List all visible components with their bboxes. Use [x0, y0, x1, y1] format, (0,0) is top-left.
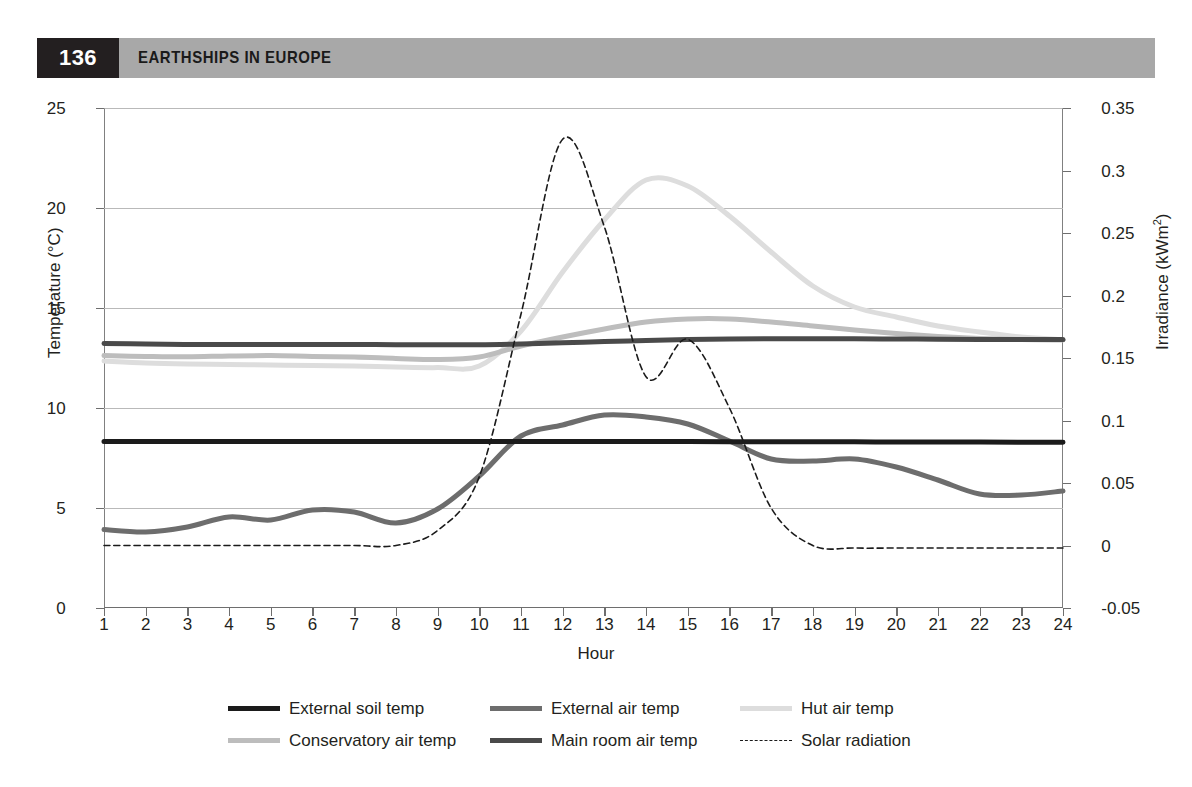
legend-label: Main room air temp	[551, 732, 697, 749]
x-axis-tick-label: 22	[970, 616, 989, 633]
x-axis-tick-label: 2	[141, 616, 150, 633]
y-axis-right-tick	[1063, 358, 1071, 359]
y-axis-left-tick-label: 25	[47, 100, 66, 117]
page-header-band: 136 EARTHSHIPS IN EUROPE	[37, 38, 1155, 78]
running-head-title: EARTHSHIPS IN EUROPE	[138, 38, 331, 78]
series-lines	[104, 108, 1063, 608]
legend-swatch-dashed-line-icon	[740, 740, 792, 741]
y-axis-left-tick	[96, 308, 104, 309]
y-axis-left-tick-label: 20	[47, 200, 66, 217]
chart-legend: External soil tempExternal air tempHut a…	[0, 692, 1192, 756]
legend-swatch-line-icon	[490, 738, 542, 743]
x-axis-tick-label: 9	[433, 616, 442, 633]
y-axis-left-tick-label: 15	[47, 300, 66, 317]
legend-swatch-line-icon	[740, 706, 792, 711]
y-axis-right-tick-label: 0.25	[1101, 225, 1134, 242]
series-line	[104, 441, 1063, 442]
y-axis-right-tick	[1063, 171, 1071, 172]
x-axis-tick-label: 24	[1054, 616, 1073, 633]
legend-row: Conservatory air tempMain room air tempS…	[0, 724, 1192, 756]
y-axis-left-tick	[96, 108, 104, 109]
legend-swatch-line-icon	[228, 738, 280, 743]
legend-swatch-line-icon	[228, 706, 280, 711]
chart-container: Temperature (°C) Irradiance (kWm2) 05101…	[0, 88, 1192, 688]
x-axis-tick-label: 7	[349, 616, 358, 633]
legend-row: External soil tempExternal air tempHut a…	[0, 692, 1192, 724]
legend-label: External air temp	[551, 700, 680, 717]
x-axis-tick-label: 15	[678, 616, 697, 633]
x-axis-tick-label: 23	[1012, 616, 1031, 633]
series-line	[104, 339, 1063, 345]
y-axis-right-title: Irradiance (kWm2)	[1152, 214, 1171, 350]
x-axis-tick-label: 4	[224, 616, 233, 633]
x-axis-tick-label: 6	[308, 616, 317, 633]
y-axis-right-tick	[1063, 546, 1071, 547]
x-axis-tick-label: 8	[391, 616, 400, 633]
x-axis-tick-label: 14	[637, 616, 656, 633]
y-axis-right-tick	[1063, 483, 1071, 484]
page-number-box: 136	[37, 38, 119, 78]
y-axis-right-tick-label: 0	[1101, 537, 1110, 554]
y-axis-left-title: Temperature (°C)	[46, 227, 63, 358]
y-axis-left-tick-label: 10	[47, 400, 66, 417]
legend-item[interactable]: Conservatory air temp	[228, 724, 490, 756]
y-axis-left-tick-label: 0	[56, 600, 65, 617]
y-axis-right-tick-label: -0.05	[1101, 600, 1140, 617]
x-axis-tick-label: 16	[720, 616, 739, 633]
legend-swatch-line-icon	[490, 706, 542, 711]
y-axis-right-tick-label: 0.1	[1101, 412, 1125, 429]
x-axis-tick-label: 20	[887, 616, 906, 633]
y-axis-right-tick	[1063, 233, 1071, 234]
page-number: 136	[59, 45, 97, 71]
legend-item[interactable]: Main room air temp	[490, 724, 740, 756]
x-axis-tick-label: 12	[553, 616, 572, 633]
x-axis-tick-label: 10	[470, 616, 489, 633]
x-axis-tick-label: 13	[595, 616, 614, 633]
plot-area: 0510152025 -0.0500.050.10.150.20.250.30.…	[104, 108, 1063, 608]
x-axis-tick-label: 17	[762, 616, 781, 633]
legend-item[interactable]: External air temp	[490, 692, 740, 724]
y-axis-right-tick-label: 0.2	[1101, 287, 1125, 304]
legend-item[interactable]: Solar radiation	[740, 724, 980, 756]
y-axis-left-tick	[96, 208, 104, 209]
series-line	[104, 415, 1063, 533]
x-axis-tick-label: 3	[183, 616, 192, 633]
x-axis-tick-label: 19	[845, 616, 864, 633]
y-axis-right-tick-label: 0.35	[1101, 100, 1134, 117]
y-axis-left-tick	[96, 608, 104, 609]
y-axis-right-tick	[1063, 296, 1071, 297]
x-axis-tick-label: 11	[512, 616, 530, 633]
legend-item[interactable]: External soil temp	[228, 692, 490, 724]
y-axis-left-tick	[96, 508, 104, 509]
x-axis-title: Hour	[0, 644, 1192, 664]
y-axis-left-tick-label: 5	[56, 500, 65, 517]
y-axis-right-tick-label: 0.3	[1101, 162, 1125, 179]
y-axis-right-tick	[1063, 421, 1071, 422]
legend-label: Hut air temp	[801, 700, 894, 717]
y-axis-right-tick-label: 0.15	[1101, 350, 1134, 367]
y-axis-left-tick	[96, 408, 104, 409]
legend-label: Solar radiation	[801, 732, 911, 749]
x-axis-tick-label: 1	[99, 616, 108, 633]
x-axis-tick-label: 21	[928, 616, 947, 633]
y-axis-right-tick	[1063, 108, 1071, 109]
x-axis-tick-label: 5	[266, 616, 275, 633]
x-axis-tick-label: 18	[803, 616, 822, 633]
legend-item[interactable]: Hut air temp	[740, 692, 980, 724]
legend-label: Conservatory air temp	[289, 732, 456, 749]
y-axis-right-tick-label: 0.05	[1101, 475, 1134, 492]
legend-label: External soil temp	[289, 700, 424, 717]
